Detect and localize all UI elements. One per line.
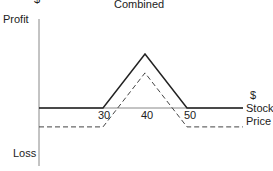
tick-label-50: 50 (184, 109, 196, 121)
tick-label-30: 30 (98, 109, 110, 121)
x-axis-unit-label: $ (250, 89, 256, 101)
combined-payoff-solid-line (39, 54, 243, 108)
tick-label-40: 40 (141, 109, 153, 121)
payoff-diagram (0, 0, 273, 171)
stock-label: Stock (246, 102, 273, 114)
price-label: Price (246, 115, 271, 127)
